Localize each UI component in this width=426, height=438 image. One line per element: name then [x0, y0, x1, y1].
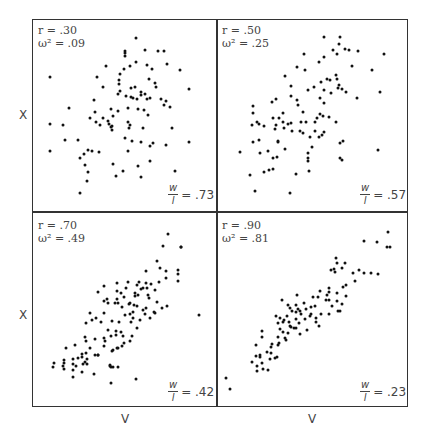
data-point	[318, 325, 321, 328]
data-point	[295, 327, 298, 330]
data-point	[342, 286, 345, 289]
ratio-value: = .23	[373, 385, 406, 399]
data-point	[259, 356, 262, 359]
data-point	[275, 315, 278, 318]
r-label: r = .90	[222, 219, 261, 232]
scatter-panel-r90: r = .90 ω² = .81 w l = .23	[0, 0, 426, 438]
data-point	[229, 388, 232, 391]
data-point	[288, 321, 291, 324]
data-point	[261, 362, 264, 365]
data-point	[300, 313, 303, 316]
data-point	[315, 317, 318, 320]
data-point	[341, 267, 344, 270]
data-point	[363, 272, 366, 275]
data-point	[306, 329, 309, 332]
data-point	[315, 321, 318, 324]
data-point	[354, 280, 357, 283]
data-point	[386, 246, 389, 249]
data-point	[345, 295, 348, 298]
data-point	[336, 292, 339, 295]
w-over-l-fraction: w l	[360, 380, 370, 403]
data-point	[282, 321, 285, 324]
data-point	[261, 336, 264, 339]
data-point	[295, 318, 298, 321]
data-point	[255, 355, 258, 358]
data-point	[358, 269, 361, 272]
data-point	[363, 240, 366, 243]
data-point	[282, 331, 285, 334]
data-point	[256, 370, 259, 373]
data-point	[352, 272, 355, 275]
data-point	[377, 273, 380, 276]
data-point	[287, 332, 290, 335]
data-point	[277, 322, 280, 325]
data-point	[339, 310, 342, 313]
omega-label: ω² = .81	[222, 232, 269, 245]
data-point	[370, 272, 373, 275]
data-point	[319, 290, 322, 293]
data-point	[304, 318, 307, 321]
data-point	[261, 330, 264, 333]
data-point	[328, 291, 331, 294]
data-point	[336, 262, 339, 265]
data-point	[270, 346, 273, 349]
data-point	[291, 310, 294, 313]
data-point	[279, 317, 282, 320]
data-point	[266, 351, 269, 354]
scatterplot-grid: X X V V r = .30 ω² = .09 w l = .73 r = .…	[0, 0, 426, 438]
data-point	[269, 358, 272, 361]
data-point	[277, 336, 280, 339]
data-point	[314, 305, 317, 308]
data-point	[325, 299, 328, 302]
data-point	[331, 305, 334, 308]
data-point	[296, 294, 299, 297]
data-point	[328, 287, 331, 290]
data-point	[255, 344, 258, 347]
data-point	[310, 306, 313, 309]
data-point	[336, 300, 339, 303]
data-point	[312, 296, 315, 299]
data-point	[345, 284, 348, 287]
data-point	[328, 299, 331, 302]
data-point	[295, 311, 298, 314]
data-point	[225, 377, 228, 380]
ratio-label: w l = .23	[360, 380, 406, 403]
data-point	[387, 231, 390, 234]
data-point	[281, 299, 284, 302]
data-point	[295, 304, 298, 307]
data-point	[335, 257, 338, 260]
data-point	[299, 333, 302, 336]
data-point	[267, 369, 270, 372]
data-point	[376, 241, 379, 244]
data-point	[290, 326, 293, 329]
data-point	[262, 368, 265, 371]
data-point	[344, 262, 347, 265]
data-point	[298, 322, 301, 325]
data-point	[303, 302, 306, 305]
data-point	[270, 352, 273, 355]
data-point	[277, 344, 280, 347]
data-point	[310, 313, 313, 316]
data-point	[274, 357, 277, 360]
data-point	[286, 315, 289, 318]
data-point	[320, 313, 323, 316]
data-point	[317, 296, 320, 299]
data-point	[389, 246, 392, 249]
data-point	[328, 313, 331, 316]
data-point	[251, 361, 254, 364]
data-point	[334, 271, 337, 274]
data-point	[305, 308, 308, 311]
data-point	[256, 365, 259, 368]
data-point	[341, 303, 344, 306]
data-point	[285, 339, 288, 342]
data-point	[326, 294, 329, 297]
